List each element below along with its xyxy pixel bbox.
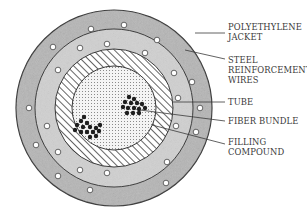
- label-polyethylene-jacket: POLYETHYLENE JACKET: [228, 22, 302, 42]
- label-line: TUBE: [228, 97, 253, 107]
- label-line: JACKET: [228, 32, 302, 42]
- label-line: FILLING: [228, 137, 284, 147]
- label-line: STEEL: [228, 55, 307, 65]
- label-line: WIRES: [228, 75, 307, 85]
- label-steel-reinforcement-wires: STEEL REINFORCEMENT WIRES: [228, 55, 307, 85]
- label-filling-compound: FILLING COMPOUND: [228, 137, 284, 157]
- label-tube: TUBE: [228, 97, 253, 107]
- label-line: COMPOUND: [228, 147, 284, 157]
- label-line: POLYETHYLENE: [228, 22, 302, 32]
- label-line: FIBER BUNDLE: [228, 116, 299, 126]
- label-line: REINFORCEMENT: [228, 65, 307, 75]
- label-fiber-bundle: FIBER BUNDLE: [228, 116, 299, 126]
